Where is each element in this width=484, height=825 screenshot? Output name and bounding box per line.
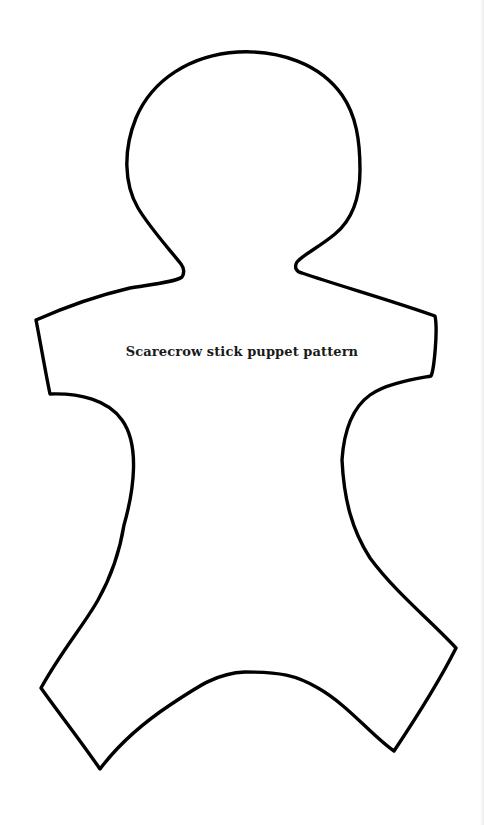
puppet-outline [0,0,484,825]
outline-path [36,52,456,769]
pattern-caption: Scarecrow stick puppet pattern [0,344,484,359]
page-edge-shadow [480,0,484,825]
pattern-page: Scarecrow stick puppet pattern [0,0,484,825]
